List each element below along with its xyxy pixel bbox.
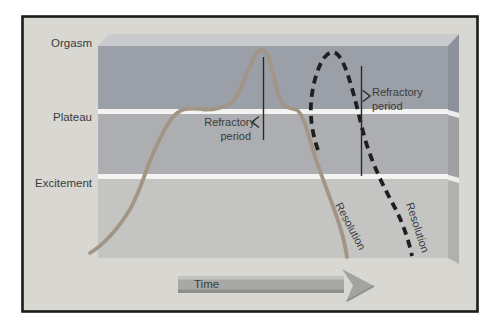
refractory-label-1-line-2: period <box>220 130 251 142</box>
time-label: Time <box>194 278 219 290</box>
response-cycle-chart: Orgasm Plateau Excitement Refractory per… <box>0 0 495 326</box>
label-plateau: Plateau <box>53 111 92 123</box>
phase-band-excitement <box>98 179 448 258</box>
side-face-excitement <box>448 180 459 264</box>
time-arrow-shadow <box>178 290 344 294</box>
phase-divider-plateau-excitement <box>98 174 448 179</box>
refractory-label-2-line-2: period <box>372 100 403 112</box>
refractory-label-2-line-1: Refractory <box>372 86 423 98</box>
label-excitement: Excitement <box>35 177 93 189</box>
side-face-plateau <box>448 115 459 178</box>
figure-sexual-response-cycle: Orgasm Plateau Excitement Refractory per… <box>0 0 495 326</box>
label-orgasm: Orgasm <box>51 37 92 49</box>
band-top-bevel <box>98 34 459 46</box>
refractory-label-1-line-1: Refractory <box>204 116 255 128</box>
side-face-orgasm <box>448 34 459 113</box>
